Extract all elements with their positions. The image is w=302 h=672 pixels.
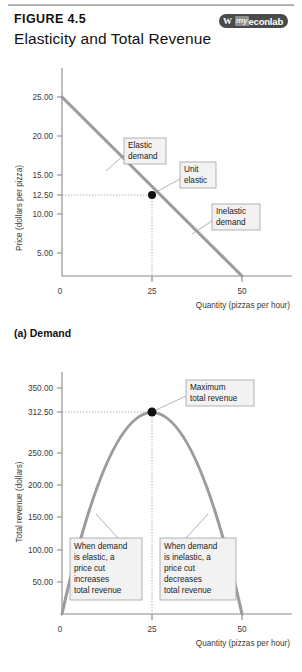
demand-ytick-25: 25.00 xyxy=(33,93,54,102)
elastic-note-line4: increases xyxy=(74,575,109,584)
figure-title: Elasticity and Total Revenue xyxy=(14,29,292,49)
demand-y-axis-label: Price (dollars per pizza) xyxy=(15,165,24,251)
demand-ytick-20: 20.00 xyxy=(33,132,54,141)
demand-x-ticks xyxy=(152,276,242,282)
demand-xtick-50: 50 xyxy=(237,287,247,296)
inelastic-note-line3: price cut xyxy=(164,564,196,573)
unit-elastic-label-line1: Unit xyxy=(184,165,199,174)
tr-y-axis-label: Total revenue (dollars) xyxy=(15,461,24,542)
elastic-demand-leader xyxy=(106,155,124,171)
demand-y-ticks xyxy=(57,97,62,253)
inelastic-note-line4: decreases xyxy=(164,575,202,584)
elastic-note-leader xyxy=(96,514,118,538)
tr-ytick-200: 200.00 xyxy=(28,481,53,490)
elastic-demand-label-line2: demand xyxy=(128,152,158,161)
total-revenue-chart: 350.00 312.50 250.00 200.00 150.00 100.0… xyxy=(0,362,302,672)
panel-a-caption: (a) Demand xyxy=(14,327,71,339)
inelastic-note-line5: total revenue xyxy=(164,586,212,595)
inelastic-note-line1: When demand xyxy=(164,542,218,551)
demand-chart: 5.00 10.00 12.50 15.00 20.00 25.00 0 25 … xyxy=(0,58,302,326)
max-revenue-leader xyxy=(156,396,186,410)
tr-ytick-312-5: 312.50 xyxy=(28,408,53,417)
inelastic-demand-label-line2: demand xyxy=(216,218,246,227)
max-revenue-point xyxy=(148,408,157,417)
inelastic-note-leader xyxy=(186,514,208,538)
tr-ytick-100: 100.00 xyxy=(28,546,53,555)
elastic-note-line5: total revenue xyxy=(74,586,122,595)
demand-ytick-15: 15.00 xyxy=(33,171,54,180)
max-revenue-label-line1: Maximum xyxy=(190,383,226,392)
unit-elastic-leader xyxy=(156,179,180,192)
elastic-note-line1: When demand xyxy=(74,542,128,551)
demand-ytick-10: 10.00 xyxy=(33,210,54,219)
unit-elastic-label-line2: elastic xyxy=(184,176,207,185)
tr-ytick-250: 250.00 xyxy=(28,449,53,458)
tr-x-axis-label: Quantity (pizzas per hour) xyxy=(196,639,290,648)
tr-xtick-25: 25 xyxy=(147,625,157,634)
demand-x-axis-label: Quantity (pizzas per hour) xyxy=(196,301,290,310)
demand-xtick-25: 25 xyxy=(147,287,157,296)
myeconlab-mark-icon: W xyxy=(223,17,232,26)
tr-xtick-50: 50 xyxy=(237,625,247,634)
elastic-demand-label-line1: Elastic xyxy=(128,141,152,150)
elastic-note-line2: is elastic, a xyxy=(74,553,115,562)
demand-ytick-12-5: 12.50 xyxy=(33,191,54,200)
tr-y-ticks xyxy=(57,388,62,582)
demand-xtick-0: 0 xyxy=(58,287,63,296)
myeconlab-logo[interactable]: W my econlab xyxy=(219,14,288,28)
unit-elastic-point xyxy=(148,191,156,199)
figure-header: FIGURE 4.5 Elasticity and Total Revenue … xyxy=(14,12,292,58)
inelastic-note-line2: is inelastic, a xyxy=(164,553,211,562)
demand-ytick-5: 5.00 xyxy=(37,249,53,258)
inelastic-demand-label-line1: Inelastic xyxy=(216,207,246,216)
top-divider-rule xyxy=(8,4,294,6)
tr-ytick-350: 350.00 xyxy=(28,384,53,393)
max-revenue-label-line2: total revenue xyxy=(190,394,238,403)
elastic-note-line3: price cut xyxy=(74,564,106,573)
tr-ytick-50: 50.00 xyxy=(33,578,54,587)
tr-xtick-0: 0 xyxy=(58,625,63,634)
tr-ytick-150: 150.00 xyxy=(28,513,53,522)
myeconlab-my-text: my xyxy=(235,16,249,26)
tr-x-ticks xyxy=(152,614,242,620)
myeconlab-name-text: econlab xyxy=(249,17,284,26)
